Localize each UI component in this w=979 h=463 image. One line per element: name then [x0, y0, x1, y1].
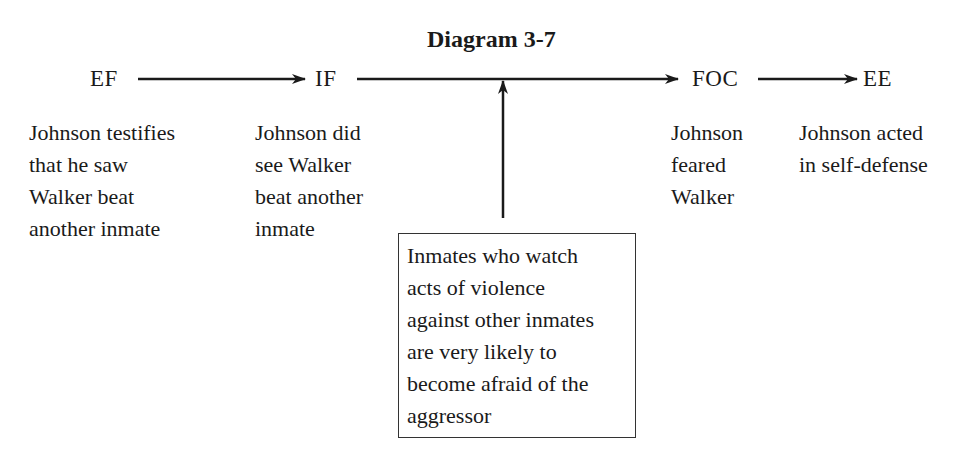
warrant-line: acts of violence: [407, 272, 635, 304]
warrant-line: Inmates who watch: [407, 240, 635, 272]
warrant-line: aggressor: [407, 400, 635, 432]
warrant-line: against other inmates: [407, 304, 635, 336]
warrant-line: become afraid of the: [407, 368, 635, 400]
warrant-line: are very likely to: [407, 336, 635, 368]
warrant-box: Inmates who watch acts of violence again…: [398, 233, 636, 438]
